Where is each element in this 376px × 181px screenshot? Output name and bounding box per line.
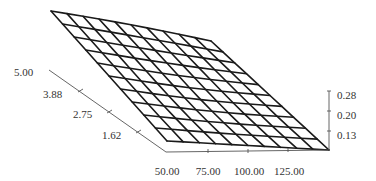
x-tick-label-125.00: 125.00 <box>274 165 305 177</box>
z-tick-label-0.28: 0.28 <box>337 89 357 101</box>
z-tick-label-0.20: 0.20 <box>337 109 357 121</box>
x-tick-label-50.00: 50.00 <box>155 165 180 177</box>
y-tick-label-5.00: 5.00 <box>14 66 34 78</box>
y-tick-label-3.88: 3.88 <box>43 88 63 100</box>
surface-plot: 5.00 3.88 2.75 1.62 50.00 75.00 100.00 1… <box>0 0 376 181</box>
wireframe-surface <box>51 11 329 150</box>
y-axis: 5.00 3.88 2.75 1.62 <box>14 66 166 152</box>
y-tick-label-2.75: 2.75 <box>73 108 93 120</box>
z-axis: 0.28 0.20 0.13 <box>327 89 357 150</box>
y-tick-label-1.62: 1.62 <box>102 129 121 141</box>
x-tick-label-100.00: 100.00 <box>234 165 265 177</box>
x-tick-label-75.00: 75.00 <box>196 165 221 177</box>
z-tick-label-0.13: 0.13 <box>337 129 357 141</box>
x-axis-line <box>166 150 329 152</box>
x-axis: 50.00 75.00 100.00 125.00 <box>155 148 329 177</box>
